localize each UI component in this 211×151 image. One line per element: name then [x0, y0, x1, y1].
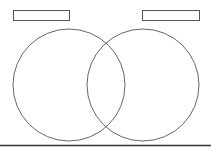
set-a-label-box[interactable] [14, 11, 70, 21]
set-b-label-box[interactable] [143, 11, 200, 21]
set-b-circle [87, 29, 199, 141]
venn-diagram [0, 0, 211, 151]
set-a-circle [13, 29, 125, 141]
